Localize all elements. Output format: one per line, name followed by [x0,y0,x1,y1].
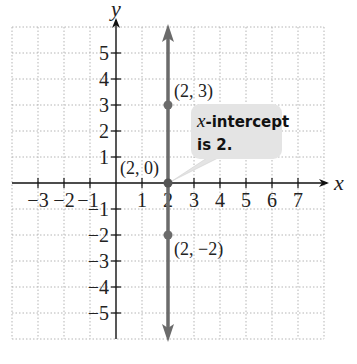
svg-text:−2: −2 [53,189,74,211]
label-point-2-3: (2, 3) [174,81,213,102]
svg-text:1: 1 [137,189,147,211]
callout-line1: x-intercept [196,110,289,131]
svg-text:4: 4 [99,68,109,90]
svg-text:−5: −5 [88,302,109,324]
svg-text:3: 3 [189,189,199,211]
svg-text:6: 6 [267,189,277,211]
svg-text:−2: −2 [88,224,109,246]
label-point-2-neg2: (2, −2) [174,239,223,260]
point-2-0 [164,179,173,188]
y-axis-label: y [109,0,121,21]
svg-text:−3: −3 [88,250,109,272]
svg-text:5: 5 [241,189,251,211]
svg-text:3: 3 [99,94,109,116]
svg-text:5: 5 [99,42,109,64]
svg-text:−1: −1 [88,198,109,220]
callout-line2: is 2. [197,136,232,154]
coordinate-plane: x-intercept is 2. x y −3 −2 −1 1 2 3 4 5… [0,0,357,364]
x-axis-label: x [333,170,344,195]
svg-text:2: 2 [99,120,109,142]
svg-text:−3: −3 [27,189,48,211]
svg-text:7: 7 [293,189,303,211]
x-tick-labels: −3 −2 −1 1 2 3 4 5 6 7 [27,189,303,211]
point-2-3 [164,101,173,110]
svg-text:−4: −4 [88,276,109,298]
x-intercept-callout: x-intercept is 2. [172,104,289,181]
svg-text:1: 1 [99,146,109,168]
svg-text:4: 4 [215,189,225,211]
point-2-neg2 [164,231,173,240]
label-point-2-0: (2, 0) [120,158,159,179]
